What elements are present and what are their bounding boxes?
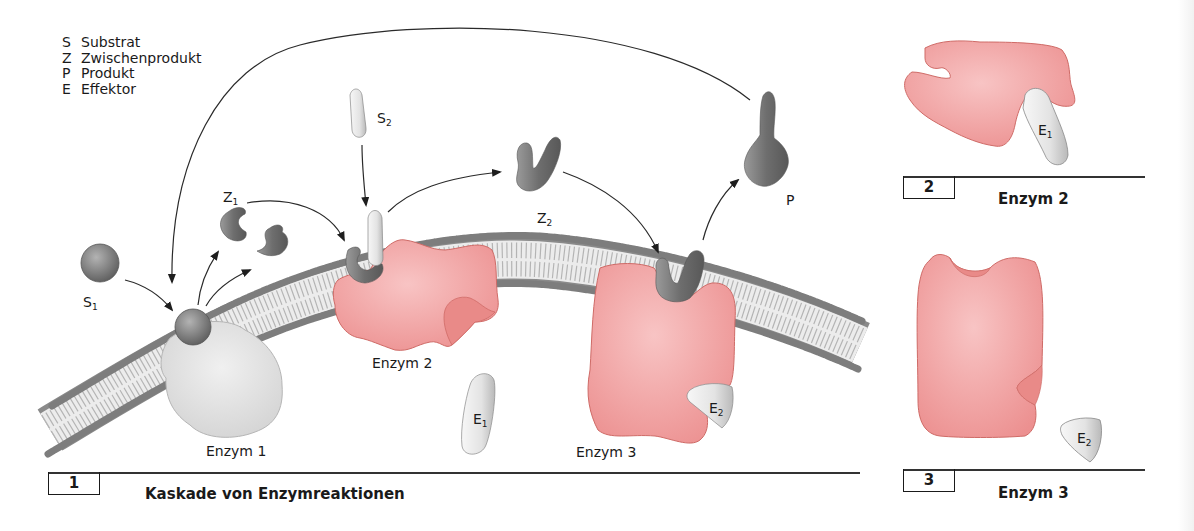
label-letter: S [83,294,92,310]
label-letter: P [786,192,794,208]
label-enzym1: Enzym 1 [206,443,266,459]
s1-bound-sphere [175,309,211,345]
label-subscript: 2 [386,118,392,128]
legend-row-produkt: PProdukt [62,66,202,82]
z2-molecule [517,137,561,191]
label-letter: E [709,400,718,416]
label-panel2-e1: E1 [1038,122,1053,143]
legend-key: P [62,66,81,82]
label-subscript: 1 [92,302,98,312]
label-letter: Z [223,189,233,205]
label-letter: S [377,110,386,126]
label-z2: Z2 [537,210,552,231]
legend-label: Substrat [81,35,140,51]
legend-row-substrat: SSubstrat [62,35,202,51]
legend: SSubstrat ZZwischenprodukt PProdukt EEff… [62,35,202,97]
label-panel3-e2: E2 [1077,430,1092,451]
label-e1: E1 [473,411,488,432]
label-letter: E [473,411,482,427]
panel1-caption-rule [48,472,860,474]
legend-label: Produkt [81,66,135,82]
panel3-title: Enzym 3 [998,484,1069,502]
arrow-s2-to-enzym2 [362,145,366,205]
label-p: P [786,192,794,208]
label-e2: E2 [709,400,724,421]
p-molecule [744,92,788,187]
s2-molecule [350,89,366,137]
arrow-enzym2-to-z2 [388,172,500,212]
legend-row-zwischenprodukt: ZZwischenprodukt [62,51,202,67]
arrow-enzym3-to-p [703,180,738,240]
legend-key: E [62,82,81,98]
z1-piece-a [221,208,247,241]
label-subscript: 1 [233,197,239,207]
arrow-s1-to-enzym1 [125,280,172,310]
panel2-number: 2 [903,176,955,199]
label-letter: E [1038,122,1047,138]
label-subscript: 1 [482,419,488,429]
label-enzym2: Enzym 2 [372,355,432,371]
legend-key: S [62,35,81,51]
label-z1: Z1 [223,189,238,210]
arrow-enzym1-to-z1a [198,252,218,305]
label-subscript: 1 [1047,130,1053,140]
legend-label: Zwischenprodukt [81,51,202,67]
panel1-title: Kaskade von Enzymreaktionen [145,485,405,503]
legend-label: Effektor [81,82,136,98]
label-s2: S2 [377,110,392,131]
s2-bound [368,211,383,266]
panel2-title: Enzym 2 [998,190,1069,208]
z1-piece-b [257,225,288,256]
label-enzym3: Enzym 3 [576,444,636,460]
panel1-number: 1 [48,472,100,495]
legend-row-effektor: EEffektor [62,82,202,98]
label-letter: E [1077,430,1086,446]
label-letter: Z [537,210,547,226]
label-subscript: 2 [1086,438,1092,448]
panel3-enzym3-shape [917,255,1043,438]
panel3-number: 3 [903,469,955,492]
label-s1: S1 [83,294,98,315]
s1-sphere [81,244,119,282]
label-subscript: 2 [718,408,724,418]
enzyme-cascade-figure: SSubstrat ZZwischenprodukt PProdukt EEff… [0,0,1194,531]
label-subscript: 2 [547,218,553,228]
page-edge-shadow [1178,0,1194,531]
legend-key: Z [62,51,81,67]
arrow-z1-to-enzym2 [247,201,344,240]
